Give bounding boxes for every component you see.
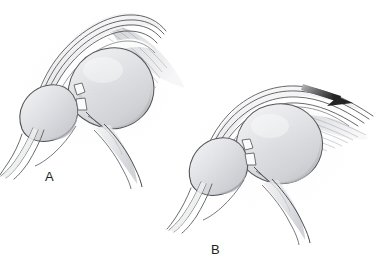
panel-label-a: A bbox=[45, 170, 54, 183]
panel-label-b: B bbox=[211, 243, 220, 256]
shoulder-illustration-figure bbox=[0, 0, 379, 271]
panel-a-soft-tissue-wash bbox=[18, 30, 174, 154]
illustration-canvas bbox=[0, 0, 379, 271]
panel-b-soft-tissue-wash bbox=[190, 88, 354, 212]
